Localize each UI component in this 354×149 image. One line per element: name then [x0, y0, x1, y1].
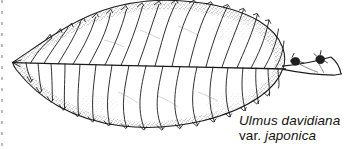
- bud-distal: [314, 50, 328, 63]
- caption-variety-epithet: japonica: [265, 128, 316, 143]
- page-scan-edge: [1, 0, 3, 149]
- caption-variety: var. japonica: [239, 128, 353, 143]
- leaf-blade: [13, 0, 285, 130]
- caption-rank-abbrev: var.: [239, 128, 261, 143]
- caption-species: Ulmus davidiana: [239, 113, 353, 128]
- botanical-figure: Ulmus davidiana var. japonica: [0, 0, 354, 149]
- caption: Ulmus davidiana var. japonica: [239, 113, 353, 143]
